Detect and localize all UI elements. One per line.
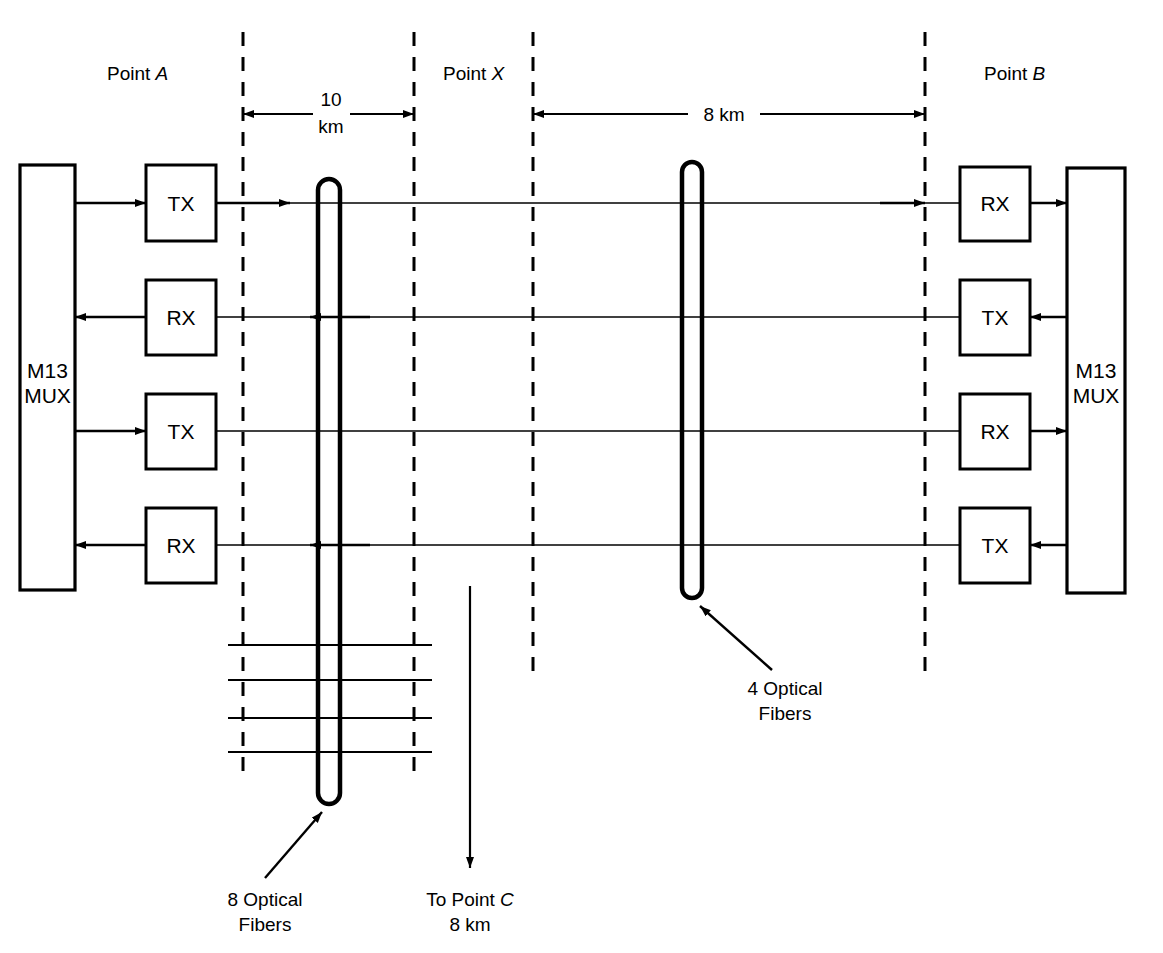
dim-10km-value-top: 10: [320, 89, 341, 110]
right-fiber-annotation: 4 Optical Fibers: [700, 606, 822, 724]
signal-row-1: [75, 165, 1067, 241]
row1-rx-label: RX: [980, 192, 1009, 215]
left-mux-line1: M13: [27, 359, 68, 382]
left-fiber-bundle: [318, 179, 340, 804]
right-fiber-label-line1: 4 Optical: [748, 678, 823, 699]
left-fiber-leader-line: [265, 812, 322, 878]
signal-row-2: [75, 280, 1067, 355]
right-fiber-bundle: [682, 162, 702, 598]
to-point-c-annotation: To Point C 8 km: [426, 586, 514, 935]
row4-rx-label: RX: [166, 534, 195, 557]
to-point-c-label-line2: 8 km: [449, 914, 490, 935]
dim-10km-value-bottom: km: [318, 116, 343, 137]
right-fiber-leader-line: [700, 606, 772, 670]
diagram-svg: Point A Point X Point B 10 km 8 km M13 M…: [0, 0, 1163, 953]
cross-connect-lines: [228, 645, 432, 752]
row2-rx-label: RX: [166, 306, 195, 329]
signal-row-4: [75, 508, 1067, 583]
row2-tx-label: TX: [982, 306, 1009, 329]
right-mux-line2: MUX: [1073, 384, 1120, 407]
left-mux-line2: MUX: [24, 384, 71, 407]
zone-divider-lines: [243, 32, 925, 782]
signal-row-3: [75, 394, 1067, 469]
row1-tx-label: TX: [168, 192, 195, 215]
diagram-canvas: Point A Point X Point B 10 km 8 km M13 M…: [0, 0, 1163, 953]
left-fiber-label-line1: 8 Optical: [228, 889, 303, 910]
point-b-label: Point B: [984, 63, 1046, 84]
to-point-c-label-line1: To Point C: [426, 889, 514, 910]
left-fiber-annotation: 8 Optical Fibers: [228, 812, 322, 935]
right-mux: M13 MUX: [1067, 168, 1125, 593]
right-fiber-label-line2: Fibers: [759, 703, 812, 724]
row3-tx-label: TX: [168, 420, 195, 443]
zone-labels: Point A Point X Point B: [107, 63, 1046, 84]
row4-tx-label: TX: [982, 534, 1009, 557]
left-fiber-label-line2: Fibers: [239, 914, 292, 935]
left-mux: M13 MUX: [20, 165, 75, 590]
dim-8km-value: 8 km: [703, 104, 744, 125]
point-a-label: Point A: [107, 63, 168, 84]
row3-rx-label: RX: [980, 420, 1009, 443]
point-x-label: Point X: [443, 63, 506, 84]
right-mux-line1: M13: [1076, 359, 1117, 382]
